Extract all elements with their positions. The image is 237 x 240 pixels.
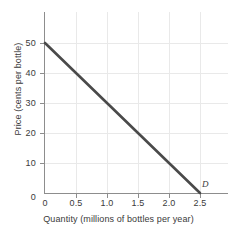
- gridline-horizontal: [45, 103, 228, 104]
- demand-curve-figure: 50 40 30 20 10 0 0 0.5 1.0 1.5 2.0 2.5 D…: [0, 0, 237, 240]
- x-axis-title: Quantity (millions of bottles per year): [0, 214, 237, 224]
- x-axis-tick-label: 1.0: [94, 198, 120, 208]
- y-axis-tick: [40, 73, 45, 74]
- y-axis-tick: [40, 43, 45, 44]
- y-axis-tick: [40, 103, 45, 104]
- demand-curve-label: D: [202, 179, 209, 189]
- x-axis-tick-label: 0.5: [63, 198, 89, 208]
- y-axis-title: Price (cents per bottle): [13, 14, 23, 164]
- plot-area: 50 40 30 20 10 0 0 0.5 1.0 1.5 2.0 2.5 D: [0, 0, 237, 240]
- y-axis-tick: [40, 133, 45, 134]
- gridline-horizontal: [45, 133, 228, 134]
- x-axis-tick-label: 1.5: [125, 198, 151, 208]
- x-axis-tick-label: 0: [32, 198, 58, 208]
- x-axis-tick-label: 2.5: [187, 198, 213, 208]
- y-axis-tick: [40, 163, 45, 164]
- x-axis-tick-label: 2.0: [156, 198, 182, 208]
- gridline-horizontal: [45, 163, 228, 164]
- gridline-horizontal: [45, 43, 228, 44]
- gridline-horizontal: [45, 73, 228, 74]
